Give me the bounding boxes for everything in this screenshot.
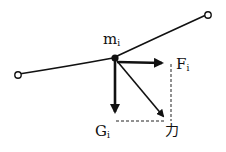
mass-label-sub: i [117, 38, 120, 48]
gravity-g-label: Gi [95, 124, 110, 140]
mass-label-main: m [103, 30, 117, 48]
resultant-label: 力 [165, 123, 179, 137]
resultant-arrow [117, 61, 163, 116]
force-f-label: Fi [176, 57, 189, 73]
force-f-arrow [117, 62, 162, 63]
right-anchor-node [205, 12, 211, 18]
force-f-label-main: F [176, 55, 186, 73]
force-diagram [0, 0, 226, 152]
mass-label: mi [103, 32, 120, 48]
gravity-g-label-main: G [95, 122, 107, 140]
mass-node [111, 54, 118, 61]
string-left-segment [19, 58, 113, 74]
string-right-segment [115, 15, 206, 57]
force-f-label-sub: i [186, 63, 189, 73]
gravity-g-label-sub: i [107, 130, 110, 140]
left-anchor-node [15, 72, 21, 78]
